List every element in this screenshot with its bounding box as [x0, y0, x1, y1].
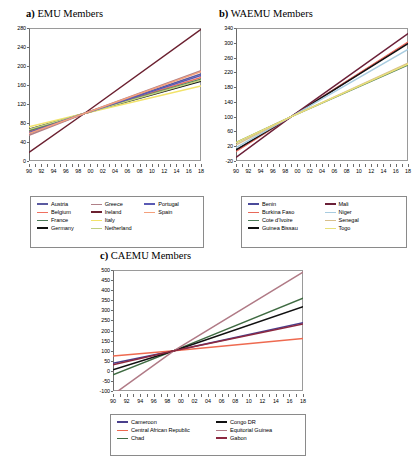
series-line: [236, 34, 408, 158]
y-tick-label: 50: [104, 358, 110, 364]
series-line: [113, 298, 303, 375]
x-tick: [154, 394, 155, 397]
panel-waemu-tag: b): [219, 8, 228, 19]
x-tick: [297, 164, 298, 167]
x-tick: [262, 394, 263, 397]
legend-item[interactable]: Niger: [325, 208, 402, 216]
x-tick-label: 94: [137, 398, 143, 404]
legend-item[interactable]: Senegal: [325, 216, 402, 224]
x-tick: [140, 164, 141, 167]
y-tick-label: 160: [17, 82, 26, 88]
legend-label: Benin: [262, 200, 276, 208]
x-axis-waemu: 909294969800020406081012141618: [211, 164, 416, 176]
legend-swatch-icon: [325, 203, 336, 205]
x-tick-label: 04: [112, 168, 118, 174]
legend-swatch-icon: [248, 212, 259, 213]
legend-item[interactable]: Central African Republic: [117, 426, 216, 434]
legend-item[interactable]: Benin: [248, 200, 325, 208]
y-tick-label: 240: [17, 44, 26, 50]
x-tick: [383, 164, 384, 167]
series-line: [236, 49, 408, 147]
legend-item[interactable]: Guinea Bissau: [248, 224, 325, 232]
legend-swatch-icon: [325, 228, 336, 229]
y-tick-label: 150: [101, 338, 110, 344]
legend-item[interactable]: Belgium: [37, 208, 91, 216]
x-tick: [322, 164, 323, 167]
x-tick: [334, 164, 335, 167]
series-lines-waemu: [211, 24, 416, 176]
panel-emu-title: a) EMU Members: [26, 8, 103, 20]
legend-label: Gabon: [230, 434, 247, 442]
legend-swatch-icon: [144, 203, 155, 205]
legend-item[interactable]: France: [37, 216, 91, 224]
y-tick-label: -50: [103, 378, 111, 384]
x-tick-label: 08: [232, 398, 238, 404]
legend-item[interactable]: Burkina Faso: [248, 208, 325, 216]
y-tick-label: 400: [101, 287, 110, 293]
legend-label: Cameroon: [131, 418, 157, 426]
legend-item[interactable]: Gabon: [216, 434, 300, 442]
legend-label: Senegal: [339, 216, 359, 224]
legend-item[interactable]: Ireland: [91, 208, 145, 216]
y-tick-label: 220: [224, 69, 233, 75]
x-tick-label: 96: [151, 398, 157, 404]
y-tick-label: 40: [20, 139, 26, 145]
legend-item-empty: [144, 224, 198, 232]
legend-swatch-icon: [248, 220, 259, 221]
series-lines-emu: [4, 24, 209, 176]
legend-item[interactable]: Austria: [37, 200, 91, 208]
legend-label: Togo: [339, 224, 351, 232]
x-tick-label: 94: [258, 168, 264, 174]
legend-item[interactable]: Cote d'Ivoire: [248, 216, 325, 224]
x-tick: [181, 394, 182, 397]
x-tick: [201, 394, 202, 397]
legend-item[interactable]: Netherland: [91, 224, 145, 232]
x-tick-label: 94: [51, 168, 57, 174]
x-tick: [228, 394, 229, 397]
x-tick: [285, 164, 286, 167]
legend-swatch-icon: [37, 203, 48, 205]
x-tick: [289, 394, 290, 397]
legend-item[interactable]: Spain: [144, 208, 198, 216]
y-tick-label: 180: [224, 84, 233, 90]
legend-item[interactable]: Mali: [325, 200, 402, 208]
x-tick: [115, 164, 116, 167]
legend-emu: AustriaGreecePortugalBelgiumIrelandSpain…: [30, 196, 204, 248]
x-tick: [35, 164, 36, 167]
legend-item[interactable]: Equitorial Guinea: [216, 426, 300, 434]
x-tick-label: 02: [100, 168, 106, 174]
legend-item[interactable]: Cameroon: [117, 418, 216, 426]
legend-label: Netherland: [105, 224, 132, 232]
x-tick: [188, 394, 189, 397]
x-tick-label: 12: [161, 168, 167, 174]
legend-item[interactable]: Germany: [37, 224, 91, 232]
legend-label: Ireland: [105, 208, 122, 216]
x-tick: [147, 394, 148, 397]
legend-label: Mali: [339, 200, 349, 208]
x-tick-label: 14: [381, 168, 387, 174]
x-tick: [242, 164, 243, 167]
legend-item[interactable]: Portugal: [144, 200, 198, 208]
y-tick: [234, 161, 236, 162]
x-tick: [78, 164, 79, 167]
x-tick: [269, 394, 270, 397]
panel-emu-title-text: EMU Members: [37, 8, 103, 19]
x-tick: [103, 164, 104, 167]
y-tick-label: 300: [101, 307, 110, 313]
x-tick: [273, 164, 274, 167]
legend-label: Germany: [51, 224, 74, 232]
legend-item[interactable]: Italy: [91, 216, 145, 224]
legend-item[interactable]: Togo: [325, 224, 402, 232]
x-tick-label: 18: [300, 398, 306, 404]
x-tick: [261, 164, 262, 167]
y-tick-label: 20: [227, 143, 233, 149]
legend-item[interactable]: Congo DR: [216, 418, 300, 426]
x-tick: [254, 164, 255, 167]
x-tick: [304, 164, 305, 167]
x-tick: [390, 164, 391, 167]
legend-item[interactable]: Chad: [117, 434, 216, 442]
legend-label: Greece: [105, 200, 123, 208]
legend-swatch-icon: [325, 220, 336, 221]
legend-item[interactable]: Greece: [91, 200, 145, 208]
series-line: [113, 272, 303, 395]
